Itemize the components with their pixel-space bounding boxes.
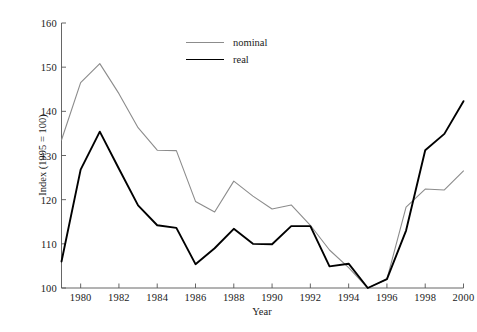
x-tick-label: 1980 [70, 292, 92, 303]
data-series-group [62, 64, 464, 288]
chart-legend: nominal real [186, 34, 267, 68]
legend-label-real: real [233, 54, 249, 65]
x-tick-label: 1982 [108, 292, 130, 303]
x-tick-label: 1998 [414, 292, 436, 303]
x-tick-label: 1988 [223, 292, 245, 303]
y-tick-label: 150 [28, 62, 57, 73]
legend-swatch-real-icon [186, 59, 224, 60]
x-tick-label: 1994 [338, 292, 360, 303]
series-line-real [62, 101, 464, 288]
x-tick-label: 1984 [146, 292, 168, 303]
x-tick-label: 1990 [261, 292, 283, 303]
x-tick-label: 1992 [299, 292, 321, 303]
x-tick-label: 1986 [185, 292, 207, 303]
y-tick-label: 110 [28, 238, 57, 249]
legend-label-nominal: nominal [233, 37, 267, 48]
chart-figure: 100110120130140150160 198019821984198619… [0, 0, 477, 332]
y-tick-label: 120 [28, 194, 57, 205]
y-tick-label: 160 [28, 18, 57, 29]
y-tick-label: 100 [28, 283, 57, 294]
x-tick-label: 1996 [376, 292, 398, 303]
x-axis-title: Year [252, 306, 271, 317]
x-tick-label: 2000 [453, 292, 475, 303]
legend-item-nominal: nominal [186, 34, 267, 51]
legend-item-real: real [186, 51, 267, 68]
y-axis-title: Index (1995 = 100) [37, 114, 48, 195]
legend-swatch-nominal-icon [186, 42, 224, 43]
